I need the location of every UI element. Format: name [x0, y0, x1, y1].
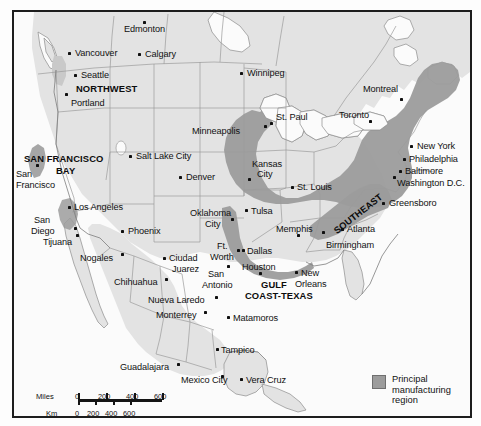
city-dot	[240, 378, 243, 381]
city-label: New	[301, 268, 319, 278]
city-label: Mexico City	[181, 375, 227, 385]
city-label: Ft.	[217, 241, 227, 251]
city-label: San	[208, 269, 224, 279]
city-dot	[36, 164, 39, 167]
city-label: Montreal	[363, 84, 398, 94]
city-dot	[264, 125, 267, 128]
city-dot	[399, 170, 402, 173]
region-label: NORTHWEST	[76, 84, 137, 94]
city-dot	[68, 52, 71, 55]
city-label: Diego	[31, 226, 55, 236]
city-label: Toronto	[339, 110, 369, 120]
city-dot	[295, 271, 298, 274]
city-label: Memphis	[276, 224, 313, 234]
city-label: Antonio	[202, 280, 232, 290]
city-dot	[129, 155, 132, 158]
city-dot	[297, 234, 300, 237]
city-label: Vera Cruz	[246, 375, 286, 385]
city-dot	[74, 74, 77, 77]
city-dot	[165, 278, 168, 281]
city-label: Ciudad	[169, 253, 198, 263]
city-label: Phoenix	[128, 226, 161, 236]
city-label: Juarez	[172, 264, 199, 274]
city-label: City	[257, 169, 272, 179]
city-dot	[403, 158, 406, 161]
city-dot	[177, 363, 180, 366]
scale-km-tick-400: 400	[105, 409, 117, 418]
city-label: Dallas	[247, 246, 272, 256]
city-dot	[400, 98, 403, 101]
city-label: Calgary	[145, 49, 176, 59]
scale-bar: Miles Km 0 200 400 600 0 200 400 600	[36, 384, 168, 418]
city-label: Los Angeles	[74, 202, 123, 212]
city-dot	[231, 218, 234, 221]
city-label: Nogales	[80, 253, 113, 263]
city-label: Edmonton	[124, 24, 165, 34]
scale-tick-km-400	[113, 399, 115, 405]
city-label: Worth	[210, 252, 234, 262]
city-dot	[74, 227, 77, 230]
city-dot	[163, 257, 166, 260]
city-label: Orleans	[295, 279, 326, 289]
scale-km-tick-0: 0	[75, 409, 79, 418]
legend: Principal manufacturing region	[372, 374, 470, 406]
city-label: Houston	[242, 262, 276, 272]
map-frame: EdmontonVancouverCalgarySeattlePortlandW…	[12, 10, 472, 418]
legend-label: Principal manufacturing region	[392, 374, 470, 406]
city-label: San	[34, 215, 50, 225]
city-label: Greensboro	[389, 198, 437, 208]
scale-tick-km-200	[95, 399, 97, 405]
city-dot	[216, 348, 219, 351]
legend-swatch-manufacturing	[372, 375, 386, 389]
city-dot	[204, 311, 207, 314]
scale-km-tick-200: 200	[87, 409, 99, 418]
city-label: Chihuahua	[114, 277, 158, 287]
city-label: Vancouver	[75, 48, 117, 58]
city-dot	[245, 209, 248, 212]
city-dot	[322, 231, 325, 234]
scale-miles-tick-0: 0	[75, 392, 79, 401]
city-dot	[393, 176, 396, 179]
city-dot	[242, 249, 245, 252]
city-label: Oklahoma	[190, 208, 231, 218]
city-label: Denver	[186, 172, 215, 182]
city-dot	[65, 93, 68, 96]
city-label: Baltimore	[405, 166, 443, 176]
city-label: St. Louis	[297, 182, 332, 192]
region-label: BAY	[56, 166, 75, 176]
city-dot	[179, 176, 182, 179]
city-label: New York	[417, 141, 455, 151]
city-label: Minneapolis	[192, 126, 240, 136]
city-dot	[369, 120, 372, 123]
city-dot	[240, 72, 243, 75]
city-label: Tulsa	[251, 206, 273, 216]
city-label: Kansas	[252, 159, 282, 169]
city-label: Washington D.C.	[397, 178, 465, 188]
city-dot	[121, 230, 124, 233]
city-label: St. Paul	[276, 112, 307, 122]
scale-miles-tick-600: 600	[154, 392, 166, 401]
city-dot	[237, 249, 240, 252]
city-label: Salt Lake City	[136, 151, 191, 161]
city-label: Philadelphia	[409, 154, 458, 164]
city-label: Francisco	[16, 180, 55, 190]
scale-miles-label: Miles	[36, 392, 54, 401]
city-label: Tampico	[221, 345, 255, 355]
city-dot	[215, 296, 218, 299]
city-label: Winnipeg	[247, 68, 285, 78]
region-label: COAST-TEXAS	[245, 291, 313, 301]
scale-km-label: Km	[46, 409, 57, 418]
city-dot	[76, 234, 79, 237]
scale-miles-tick-400: 400	[126, 392, 138, 401]
city-label: San	[16, 169, 32, 179]
scale-line	[78, 399, 162, 402]
city-label: Birmingham	[326, 240, 374, 250]
region-label: SAN FRANCISCO	[24, 154, 103, 164]
city-label: Seattle	[81, 70, 109, 80]
city-dot	[410, 145, 413, 148]
city-label: Monterrey	[156, 310, 196, 320]
city-label: City	[205, 219, 220, 229]
city-label: Tijuana	[43, 237, 72, 247]
city-dot	[291, 186, 294, 189]
region-label: GULF	[261, 280, 287, 290]
